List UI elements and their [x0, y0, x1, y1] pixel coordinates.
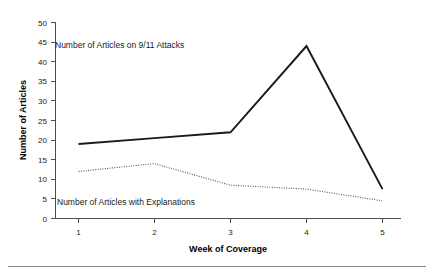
y-tick-label: 50: [38, 19, 47, 28]
x-tick-label: 2: [152, 228, 157, 237]
chart-figure: 50 45 40 35 30 25 20 15 10 5 0 1 2 3 4 5: [0, 0, 434, 273]
y-axis-title: Number of Articles: [18, 80, 28, 160]
y-tick-label: 10: [38, 175, 47, 184]
x-tick-label: 5: [380, 228, 385, 237]
y-tick-label: 15: [38, 156, 47, 165]
x-axis-title: Week of Coverage: [189, 244, 267, 254]
y-tick-label: 0: [43, 215, 48, 224]
y-tick-label: 45: [38, 38, 47, 47]
y-tick-label: 5: [43, 195, 48, 204]
x-tick-label: 1: [76, 228, 81, 237]
series-label-attacks: Number of Articles on 9/11 Attacks: [55, 40, 184, 50]
series-label-explanations: Number of Articles with Explanations: [57, 197, 195, 207]
y-tick-label: 30: [38, 97, 47, 106]
y-tick-label: 20: [38, 136, 47, 145]
y-tick-label: 40: [38, 58, 47, 67]
x-tick-label: 3: [228, 228, 233, 237]
y-tick-label: 25: [38, 117, 47, 126]
y-tick-label: 35: [38, 77, 47, 86]
x-tick-label: 4: [304, 228, 309, 237]
line-chart: 50 45 40 35 30 25 20 15 10 5 0 1 2 3 4 5: [0, 0, 434, 273]
